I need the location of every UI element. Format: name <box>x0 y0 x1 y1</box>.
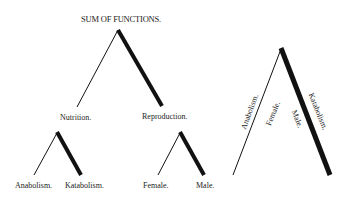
diagram-lines <box>0 0 350 201</box>
label-female: Female. <box>143 182 169 190</box>
label-nutrition: Nutrition. <box>60 114 91 122</box>
label-katabolism: Katabolism. <box>65 182 104 190</box>
reproduction-thin-branch <box>158 133 180 175</box>
nutrition-thick-branch <box>57 132 81 175</box>
label-reproduction: Reproduction. <box>142 113 188 121</box>
diagram-title: SUM OF FUNCTIONS. <box>81 15 161 24</box>
label-male: Male. <box>196 182 214 190</box>
label-anabolism: Anabolism. <box>15 182 52 190</box>
nutrition-thin-branch <box>34 133 57 175</box>
reproduction-thick-branch <box>180 132 204 175</box>
main-thin-branch <box>77 30 118 107</box>
main-thick-branch <box>118 30 162 106</box>
